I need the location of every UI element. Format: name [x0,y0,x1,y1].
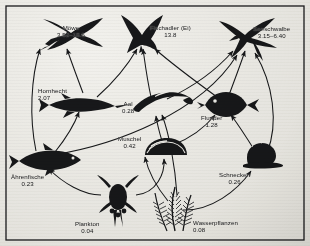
diagram-board: Möwe 3.52–18.5 Fischadler (Ei) 13.8 Sees… [5,5,305,241]
node-value-aehrenfische: 0.23 [11,180,44,187]
node-value-aal: 0.28 [122,107,134,114]
node-value-hornhecht: 2.07 [38,94,67,101]
node-value-moewe: 3.52–18.5 [57,31,85,38]
node-name-schnecken: Schnecken [219,171,250,178]
node-label-seeschwalbe: Seeschwalbe 3.15–6.40 [253,25,290,39]
node-name-moewe: Möwe [63,24,80,31]
node-label-moewe: Möwe 3.52–18.5 [57,24,85,38]
node-value-flunder: 1.28 [201,121,222,128]
node-name-wasserpflanzen: Wasserpflanzen [193,219,238,226]
node-name-seeschwalbe: Seeschwalbe [253,25,290,32]
node-name-hornhecht: Hornhecht [38,87,67,94]
node-name-aal: Aal [124,100,133,107]
node-name-plankton: Plankton [75,220,100,227]
frame-border [5,5,305,241]
node-label-muschel: Muschel 0.42 [118,135,141,149]
node-value-plankton: 0.04 [75,227,100,234]
node-name-muschel: Muschel [118,135,141,142]
node-value-wasserpflanzen: 0.08 [193,226,238,233]
node-label-aehrenfische: Ährenfische 0.23 [11,173,44,187]
node-name-fischadler: Fischadler (Ei) [150,24,191,31]
node-name-flunder: Flunder [201,114,222,121]
node-label-hornhecht: Hornhecht 2.07 [38,87,67,101]
node-label-schnecken: Schnecken 0.26 [219,171,250,185]
node-name-aehrenfische: Ährenfische [11,173,44,180]
node-label-aal: Aal 0.28 [122,100,134,114]
food-web-figure: Möwe 3.52–18.5 Fischadler (Ei) 13.8 Sees… [0,0,310,246]
node-label-flunder: Flunder 1.28 [201,114,222,128]
node-value-schnecken: 0.26 [219,178,250,185]
node-value-muschel: 0.42 [118,142,141,149]
node-label-wasserpflanzen: Wasserpflanzen 0.08 [193,219,238,233]
node-value-seeschwalbe: 3.15–6.40 [253,32,290,39]
node-label-plankton: Plankton 0.04 [75,220,100,234]
node-value-fischadler: 13.8 [150,31,191,38]
node-label-fischadler: Fischadler (Ei) 13.8 [150,24,191,38]
